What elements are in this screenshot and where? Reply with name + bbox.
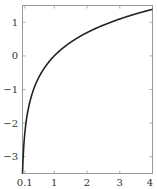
y-tick-label: −1 xyxy=(3,84,18,95)
x-tick-label: 1 xyxy=(51,177,57,188)
y-tick-label: 0 xyxy=(12,50,18,61)
y-tick-label: −3 xyxy=(3,151,18,162)
log-plot: 0.11234 10−1−2−3 xyxy=(0,0,157,189)
x-tick-label: 0.1 xyxy=(17,177,33,188)
y-tick-label: 1 xyxy=(12,17,18,28)
data-line-ln-x xyxy=(23,9,153,173)
x-tick-label: 3 xyxy=(117,177,123,188)
y-tick-label: −2 xyxy=(3,118,18,129)
y-axis-tick-labels: 10−1−2−3 xyxy=(3,17,18,162)
axis-ticks xyxy=(23,6,153,174)
x-tick-label: 2 xyxy=(84,177,90,188)
plot-frame xyxy=(23,6,153,174)
x-axis-tick-labels: 0.11234 xyxy=(17,177,153,188)
x-tick-label: 4 xyxy=(147,177,153,188)
